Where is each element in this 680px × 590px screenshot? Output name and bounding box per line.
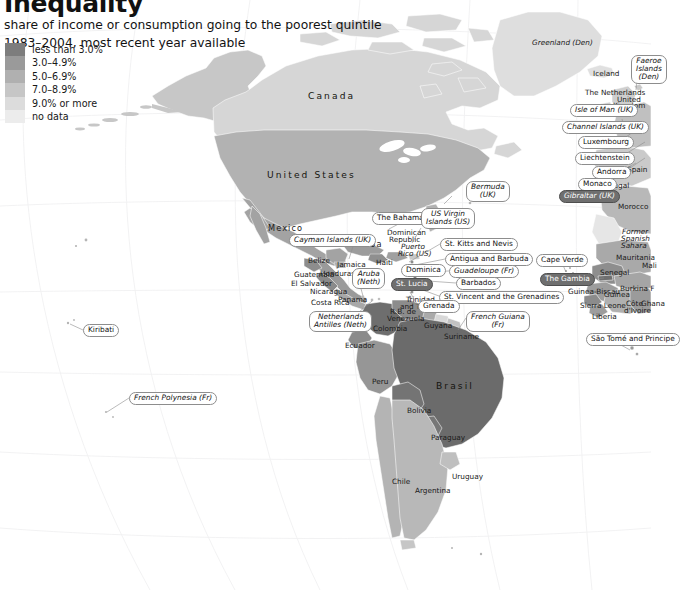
map-callout-label: Aruba(Neth) (352, 268, 385, 289)
country-label: Ecuador (345, 342, 375, 350)
country-label: Sahara (621, 242, 647, 250)
map-callout-label: US VirginIslands (US) (421, 208, 475, 229)
legend-label: 5.0–6.9% (25, 70, 76, 83)
country-label: Panama (338, 296, 367, 304)
country-label: Greenland (Den) (532, 39, 593, 47)
map-callout-label: French Guiana(Fr) (466, 311, 530, 332)
country-label: Liberia (592, 313, 617, 321)
map-callout-label: Gibraltar (UK) (559, 190, 620, 203)
country-label: Haiti (376, 259, 393, 267)
map-callout-label: Cayman Islands (UK) (289, 234, 376, 247)
country-label: Brasil (436, 381, 474, 391)
country-label: Paraguay (431, 434, 465, 442)
country-label: Belize (308, 257, 330, 265)
country-label: Honduras (320, 270, 355, 278)
map-callout-label: Liechtenstein (575, 152, 635, 165)
country-label: Ghana (641, 300, 665, 308)
map-callout-label: The Gambia (540, 273, 595, 286)
map-legend: less than 3.0%3.0–4.9%5.0–6.9%7.0–8.9%9.… (5, 43, 103, 123)
legend-row: less than 3.0% (5, 43, 103, 56)
legend-label: 3.0–4.9% (25, 56, 76, 69)
legend-row: 7.0–8.9% (5, 83, 103, 96)
legend-row: 3.0–4.9% (5, 56, 103, 69)
country-label: United States (267, 170, 356, 180)
country-label: Uruguay (452, 473, 483, 481)
map-callout-label: French Polynesia (Fr) (129, 392, 217, 405)
map-callout-label: St. Lucia (391, 278, 433, 291)
country-label: Venezuela (387, 315, 424, 323)
country-label: Suriname (444, 333, 479, 341)
legend-swatch (5, 56, 25, 69)
country-label: d'Ivoire (624, 307, 651, 315)
legend-swatch (5, 110, 25, 123)
country-label: Canada (308, 91, 355, 101)
country-label: Chile (392, 478, 410, 486)
legend-label: less than 3.0% (25, 43, 103, 56)
country-label: Sierra Leone (580, 302, 626, 310)
country-label: Rico (US) (398, 250, 432, 258)
legend-label: 7.0–8.9% (25, 83, 76, 96)
map-callout-label: FaeroeIslands(Den) (631, 55, 667, 84)
legend-row: no data (5, 110, 103, 123)
map-callout-label: Barbados (456, 277, 501, 290)
country-label: Mexico (268, 224, 303, 233)
map-callout-label: Luxembourg (578, 136, 634, 149)
map-callout-label: St. Kitts and Nevis (440, 238, 518, 251)
legend-row: 5.0–6.9% (5, 70, 103, 83)
legend-row: 9.0% or more (5, 97, 103, 110)
country-label: Guyana (424, 322, 452, 330)
map-callout-label: NetherlandsAntilles (Neth) (309, 311, 372, 332)
country-label: Colombia (373, 325, 407, 333)
country-label: Peru (372, 378, 388, 386)
country-label: Burkina F (620, 285, 655, 293)
country-label: Senegal (600, 269, 629, 277)
legend-swatch (5, 43, 25, 56)
country-label: Argentina (415, 487, 451, 495)
page-title: Inequality (3, 0, 320, 16)
country-label: Iceland (593, 70, 619, 78)
map-callout-label: Dominica (401, 264, 446, 277)
map-callout-label: Kiribati (83, 324, 119, 337)
map-callout-label: Isle of Man (UK) (570, 104, 638, 117)
map-callout-label: Grenada (418, 300, 460, 313)
map-callout-label: Channel Islands (UK) (562, 121, 649, 134)
legend-label: no data (25, 110, 69, 123)
legend-label: 9.0% or more (25, 97, 97, 110)
country-label: Bolivia (407, 407, 431, 415)
map-callout-label: Cape Verde (536, 254, 588, 267)
legend-swatch (5, 83, 25, 96)
map-callout-label: Bermuda(UK) (466, 181, 510, 202)
map-callout-label: São Tomé and Principe (586, 333, 680, 346)
legend-swatch (5, 70, 25, 83)
country-label: Morocco (618, 203, 649, 211)
country-label: Mali (642, 262, 657, 270)
legend-swatch (5, 97, 25, 110)
subtitle-line-1: share of income or consumption going to … (3, 17, 320, 34)
